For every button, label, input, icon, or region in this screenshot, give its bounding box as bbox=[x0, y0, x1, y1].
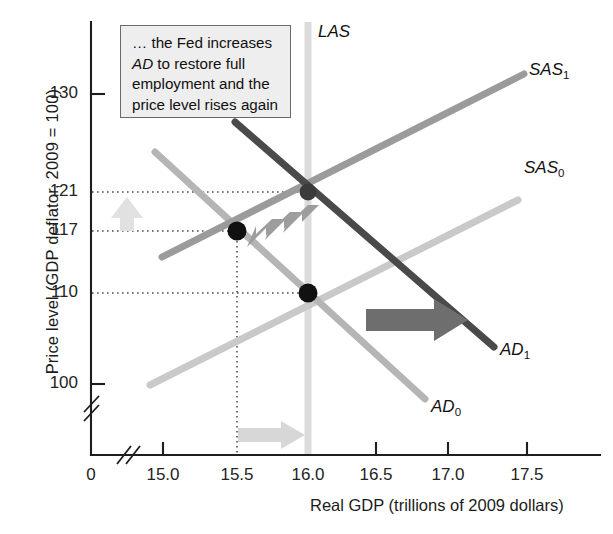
axis-break-marks bbox=[84, 396, 140, 464]
ad-shift-arrow bbox=[366, 299, 468, 341]
x-tick-16-0: 16.0 bbox=[278, 465, 338, 485]
sas0-label: SAS0 bbox=[524, 158, 564, 179]
sas1-label-base: SAS bbox=[529, 60, 563, 79]
y-tick-117: 117 bbox=[10, 220, 78, 240]
las-label: LAS bbox=[318, 22, 350, 42]
y-tick-130: 130 bbox=[10, 83, 78, 103]
ad0-label: AD0 bbox=[431, 397, 461, 418]
x-axis-label: Real GDP (trillions of 2009 dollars) bbox=[310, 496, 610, 515]
callout-line-2: AD to restore full bbox=[132, 54, 281, 75]
sas0-curve bbox=[150, 200, 518, 385]
ad0-label-base: AD bbox=[431, 397, 455, 416]
x-tick-17-5: 17.5 bbox=[497, 465, 557, 485]
price-level-rise-arrow bbox=[111, 197, 143, 231]
equilibrium-dot-15-5-117 bbox=[228, 222, 247, 241]
chart-figure: Price level (GDP deflator, 2009 = 100) R… bbox=[0, 0, 613, 534]
callout-line-3: employment and the bbox=[132, 74, 281, 95]
x-tick-17-0: 17.0 bbox=[418, 465, 478, 485]
callout-line-2-rest: to restore full bbox=[153, 55, 245, 72]
equilibrium-dot-16-110 bbox=[299, 284, 318, 303]
y-tick-121: 121 bbox=[10, 181, 78, 201]
ad0-label-sub: 0 bbox=[455, 406, 461, 418]
sas1-label-sub: 1 bbox=[563, 69, 569, 81]
callout-line-4: price level rises again bbox=[132, 95, 281, 116]
chart-canvas bbox=[0, 0, 613, 534]
callout-line-1: … the Fed increases bbox=[132, 33, 281, 54]
y-tick-100: 100 bbox=[10, 373, 78, 393]
sas1-label: SAS1 bbox=[529, 60, 569, 81]
real-gdp-increase-arrow bbox=[238, 421, 305, 449]
sas0-label-base: SAS bbox=[524, 158, 558, 177]
ad1-label-base: AD bbox=[500, 340, 524, 359]
sas0-label-sub: 0 bbox=[558, 167, 564, 179]
y-tick-110: 110 bbox=[10, 282, 78, 302]
callout-ad-emphasis: AD bbox=[132, 55, 153, 72]
equilibrium-dot-16-121 bbox=[300, 184, 317, 201]
x-tick-0: 0 bbox=[61, 465, 121, 485]
ad1-label: AD1 bbox=[500, 340, 530, 361]
x-tick-15-0: 15.0 bbox=[133, 465, 193, 485]
x-tick-15-5: 15.5 bbox=[207, 465, 267, 485]
x-tick-16-5: 16.5 bbox=[346, 465, 406, 485]
ad1-label-sub: 1 bbox=[524, 349, 530, 361]
callout-box: … the Fed increases AD to restore full e… bbox=[120, 25, 291, 118]
